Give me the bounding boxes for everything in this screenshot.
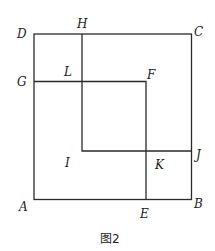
label-l: L (63, 65, 72, 79)
label-d: D (16, 27, 27, 41)
label-g: G (17, 75, 27, 89)
square-hcj-edges (82, 34, 192, 151)
square-aefg-edges (34, 82, 146, 200)
label-h: H (76, 17, 88, 31)
geometry-figure: D H C G L F I K J A E B 图2 (0, 0, 215, 251)
label-a: A (18, 200, 28, 214)
label-b: B (193, 197, 203, 211)
label-i: I (64, 156, 70, 170)
label-e: E (139, 207, 149, 221)
figure-caption: 图2 (100, 232, 120, 246)
label-j: J (193, 148, 202, 162)
label-k: K (154, 158, 165, 172)
square-abcd (34, 34, 192, 200)
label-c: C (194, 25, 203, 39)
label-f: F (146, 68, 156, 82)
